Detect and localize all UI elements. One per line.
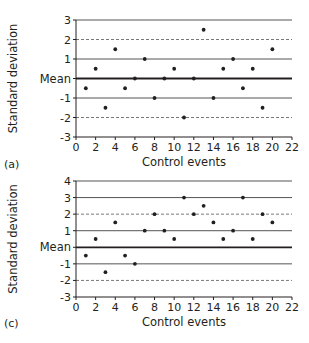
data-point bbox=[261, 212, 265, 216]
data-point bbox=[104, 270, 108, 274]
data-point bbox=[231, 229, 235, 233]
x-tick-label: 4 bbox=[112, 141, 119, 154]
data-point bbox=[94, 237, 98, 241]
x-tick-label: 22 bbox=[285, 301, 299, 314]
data-point bbox=[143, 229, 147, 233]
x-tick-label: 0 bbox=[73, 141, 80, 154]
data-point bbox=[202, 28, 206, 32]
y-axis-label: Standard deviation bbox=[6, 184, 20, 293]
data-point bbox=[231, 57, 235, 61]
data-point bbox=[241, 196, 245, 200]
data-point bbox=[270, 221, 274, 225]
data-point bbox=[123, 254, 127, 258]
x-tick-label: 14 bbox=[206, 141, 220, 154]
panel-label: (c) bbox=[4, 317, 19, 330]
data-point bbox=[261, 106, 265, 110]
x-tick-label: 14 bbox=[206, 301, 220, 314]
y-tick-label: Mean bbox=[40, 240, 71, 254]
data-point bbox=[113, 221, 117, 225]
x-tick-label: 0 bbox=[73, 301, 80, 314]
data-point bbox=[162, 77, 166, 81]
data-point bbox=[192, 77, 196, 81]
data-point bbox=[251, 67, 255, 71]
data-point bbox=[182, 196, 186, 200]
chart-panel-c: 4321Mean-1-2-30246810121416182022Control… bbox=[4, 175, 299, 330]
data-point bbox=[104, 106, 108, 110]
y-tick-label: 1 bbox=[64, 225, 71, 238]
data-point bbox=[212, 221, 216, 225]
x-tick-label: 20 bbox=[265, 141, 279, 154]
x-axis-label: Control events bbox=[142, 155, 226, 169]
data-point bbox=[94, 67, 98, 71]
data-point bbox=[241, 86, 245, 90]
data-point bbox=[202, 204, 206, 208]
control-charts: 321Mean-1-2-30246810121416182022Control … bbox=[0, 0, 309, 343]
y-tick-label: 3 bbox=[64, 192, 71, 205]
data-point bbox=[84, 254, 88, 258]
x-tick-label: 16 bbox=[226, 141, 240, 154]
y-tick-label: -3 bbox=[60, 291, 71, 304]
data-point bbox=[212, 96, 216, 100]
x-axis-label: Control events bbox=[142, 315, 226, 329]
x-tick-label: 6 bbox=[131, 301, 138, 314]
x-tick-label: 18 bbox=[246, 141, 260, 154]
y-tick-label: 2 bbox=[64, 208, 71, 221]
x-tick-label: 10 bbox=[167, 141, 181, 154]
y-tick-label: Mean bbox=[40, 72, 71, 86]
chart-panel-a: 321Mean-1-2-30246810121416182022Control … bbox=[4, 14, 299, 171]
x-tick-label: 6 bbox=[131, 141, 138, 154]
y-tick-label: -2 bbox=[60, 274, 71, 287]
data-point bbox=[192, 212, 196, 216]
y-tick-label: 3 bbox=[64, 14, 71, 27]
y-tick-label: -3 bbox=[60, 131, 71, 144]
x-tick-label: 10 bbox=[167, 301, 181, 314]
x-tick-label: 8 bbox=[151, 301, 158, 314]
x-tick-label: 12 bbox=[187, 141, 201, 154]
x-tick-label: 4 bbox=[112, 301, 119, 314]
x-tick-label: 18 bbox=[246, 301, 260, 314]
x-tick-label: 2 bbox=[92, 141, 99, 154]
data-point bbox=[172, 237, 176, 241]
data-point bbox=[133, 77, 137, 81]
data-point bbox=[251, 237, 255, 241]
y-tick-label: -1 bbox=[60, 92, 71, 105]
y-tick-label: -1 bbox=[60, 258, 71, 271]
x-tick-label: 16 bbox=[226, 301, 240, 314]
x-tick-label: 2 bbox=[92, 301, 99, 314]
data-point bbox=[133, 262, 137, 266]
x-tick-label: 8 bbox=[151, 141, 158, 154]
x-tick-label: 22 bbox=[285, 141, 299, 154]
x-tick-label: 12 bbox=[187, 301, 201, 314]
panel-label: (a) bbox=[4, 158, 19, 171]
y-axis-label: Standard deviation bbox=[6, 24, 20, 133]
data-point bbox=[143, 57, 147, 61]
data-point bbox=[123, 86, 127, 90]
data-point bbox=[153, 212, 157, 216]
y-tick-label: 2 bbox=[64, 34, 71, 47]
y-tick-label: -2 bbox=[60, 112, 71, 125]
data-point bbox=[221, 237, 225, 241]
y-tick-label: 1 bbox=[64, 53, 71, 66]
data-point bbox=[270, 47, 274, 51]
x-tick-label: 20 bbox=[265, 301, 279, 314]
data-point bbox=[172, 67, 176, 71]
y-tick-label: 4 bbox=[64, 175, 71, 188]
data-point bbox=[113, 47, 117, 51]
data-point bbox=[221, 67, 225, 71]
data-point bbox=[153, 96, 157, 100]
data-point bbox=[162, 229, 166, 233]
data-point bbox=[84, 86, 88, 90]
data-point bbox=[182, 116, 186, 120]
